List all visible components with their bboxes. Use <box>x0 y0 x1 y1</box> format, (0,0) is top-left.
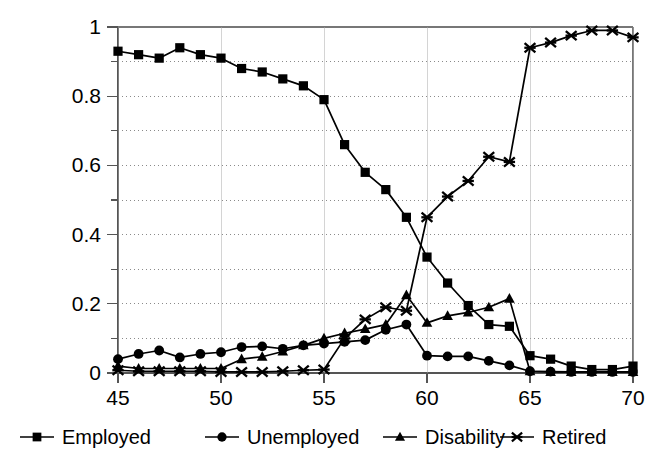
data-point-square <box>113 47 122 56</box>
data-point-square <box>361 168 370 177</box>
marker-square <box>443 278 452 287</box>
legend-item-unemployed[interactable]: Unemployed <box>205 426 359 448</box>
marker-circle <box>463 351 473 361</box>
marker-square <box>422 252 431 261</box>
marker-square <box>402 213 411 222</box>
data-point-cross-star <box>442 192 453 201</box>
data-point-circle <box>257 341 267 351</box>
legend-label: Disability <box>425 426 505 448</box>
marker-square <box>258 67 267 76</box>
x-tick-label: 60 <box>415 386 438 409</box>
chart-legend: EmployedUnemployedDisabilityRetired <box>20 426 606 448</box>
data-point-circle <box>422 351 432 361</box>
legend-item-disability[interactable]: Disability <box>383 426 505 448</box>
marker-circle <box>505 360 515 370</box>
gridlines-group <box>118 62 633 339</box>
legend-item-retired[interactable]: Retired <box>500 426 606 448</box>
y-tick-label: 0.8 <box>72 84 101 107</box>
data-point-square <box>196 50 205 59</box>
data-point-triangle <box>504 293 515 303</box>
marker-circle <box>237 342 247 352</box>
data-point-cross-star <box>566 31 577 40</box>
plot-frame <box>118 27 633 373</box>
data-point-cross-star <box>257 367 268 376</box>
data-point-square <box>505 322 514 331</box>
marker-circle <box>217 432 226 441</box>
chart-page: 00.20.40.60.81455055606570EmployedUnempl… <box>0 0 665 470</box>
x-tick-label: 45 <box>106 386 129 409</box>
data-point-circle <box>443 351 453 361</box>
data-point-square <box>175 43 184 52</box>
marker-square <box>155 54 164 63</box>
data-point-cross-star <box>236 367 247 376</box>
chart-canvas: 00.20.40.60.81455055606570EmployedUnempl… <box>0 0 665 470</box>
marker-square <box>381 185 390 194</box>
data-point-square <box>33 433 42 442</box>
data-point-square <box>216 54 225 63</box>
marker-square <box>216 54 225 63</box>
data-point-square <box>258 67 267 76</box>
data-point-cross-star <box>483 152 494 161</box>
marker-triangle <box>504 293 515 303</box>
marker-square <box>319 95 328 104</box>
legend-label: Unemployed <box>247 426 359 448</box>
data-point-square <box>443 278 452 287</box>
marker-square <box>299 81 308 90</box>
series-line <box>118 325 633 372</box>
marker-square <box>361 168 370 177</box>
data-point-square <box>340 140 349 149</box>
marker-circle <box>175 353 185 363</box>
data-point-circle <box>402 320 412 330</box>
data-point-square <box>237 64 246 73</box>
marker-square <box>113 47 122 56</box>
marker-circle <box>422 351 432 361</box>
x-tick-label: 65 <box>518 386 541 409</box>
x-axis-ticks: 455055606570 <box>106 27 644 409</box>
legend-item-employed[interactable]: Employed <box>20 426 151 448</box>
marker-circle <box>257 341 267 351</box>
marker-square <box>33 433 42 442</box>
marker-circle <box>134 349 144 359</box>
data-point-cross-star <box>277 367 288 376</box>
series-line <box>118 30 633 372</box>
x-tick-label: 50 <box>209 386 232 409</box>
data-point-square <box>402 213 411 222</box>
data-point-cross-star <box>512 433 523 442</box>
marker-circle <box>196 349 206 359</box>
data-point-circle <box>134 349 144 359</box>
data-point-circle <box>484 356 494 366</box>
data-point-cross-star <box>545 38 556 47</box>
series-employed <box>113 43 637 374</box>
marker-square <box>196 50 205 59</box>
y-tick-label: 0.4 <box>72 223 102 246</box>
marker-circle <box>443 351 453 361</box>
data-point-square <box>134 50 143 59</box>
data-point-square <box>484 320 493 329</box>
data-point-cross-star <box>360 315 371 324</box>
marker-square <box>237 64 246 73</box>
marker-square <box>546 355 555 364</box>
data-point-square <box>381 185 390 194</box>
data-point-square <box>155 54 164 63</box>
data-point-circle <box>360 335 370 345</box>
data-point-circle <box>217 432 226 441</box>
y-tick-label: 0 <box>89 361 101 384</box>
data-point-square <box>546 355 555 364</box>
data-point-circle <box>237 342 247 352</box>
data-point-cross-star <box>380 303 391 312</box>
legend-label: Employed <box>62 426 151 448</box>
y-axis-ticks: 00.20.40.60.81 <box>72 15 118 384</box>
marker-circle <box>154 346 164 356</box>
legend-label: Retired <box>542 426 606 448</box>
marker-circle <box>402 320 412 330</box>
data-point-circle <box>175 353 185 363</box>
data-point-cross-star <box>463 176 474 185</box>
series-retired <box>112 26 638 377</box>
marker-circle <box>216 347 226 357</box>
data-point-square <box>319 95 328 104</box>
marker-circle <box>484 356 494 366</box>
marker-square <box>278 74 287 83</box>
data-point-circle <box>196 349 206 359</box>
line-chart-figure: 00.20.40.60.81455055606570EmployedUnempl… <box>0 0 665 470</box>
data-point-square <box>422 252 431 261</box>
